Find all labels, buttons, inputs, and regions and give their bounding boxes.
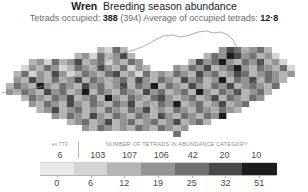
map-canvas — [0, 27, 308, 139]
tetrad-cell — [59, 83, 67, 89]
tetrad-cell — [97, 47, 105, 53]
tetrad-cell — [264, 77, 272, 83]
tetrad-cell — [112, 113, 120, 119]
tetrad-cell — [188, 89, 196, 95]
tetrad-cell — [82, 101, 90, 107]
tetrad-cell — [128, 95, 136, 101]
season-label: Breeding season abundance — [103, 0, 237, 12]
tetrad-cell — [128, 101, 136, 107]
tetrad-cell — [242, 95, 250, 101]
tetrad-cell — [249, 65, 257, 71]
tetrad-cell — [36, 71, 44, 77]
tetrad-cell — [264, 89, 272, 95]
legend-swatch — [242, 163, 276, 175]
tetrad-cell — [143, 77, 151, 83]
tetrad-cell — [181, 107, 189, 113]
tetrad-cell — [105, 101, 113, 107]
tetrad-cell — [29, 59, 37, 65]
tetrad-cell — [74, 113, 82, 119]
tetrad-cell — [82, 65, 90, 71]
tetrad-cell — [173, 113, 181, 119]
tetrad-cell — [226, 95, 234, 101]
tetrad-cell — [173, 101, 181, 107]
tetrad-cell — [257, 89, 265, 95]
tetrad-cell — [135, 65, 143, 71]
tetrad-cell — [181, 65, 189, 71]
tetrad-cell — [219, 101, 227, 107]
tetrad-cell — [36, 101, 44, 107]
tetrad-cell — [120, 71, 128, 77]
tetrad-cell — [226, 107, 234, 113]
tetrad-cell — [128, 65, 136, 71]
tetrad-cell — [173, 71, 181, 77]
tetrad-cell — [272, 71, 280, 77]
tetrad-cell — [135, 83, 143, 89]
tetrad-cell — [287, 65, 295, 71]
tetrad-cell — [29, 65, 37, 71]
tetrad-cell — [181, 89, 189, 95]
tetrad-cell — [14, 77, 22, 83]
tetrad-cell — [67, 83, 75, 89]
tetrad-cell — [219, 89, 227, 95]
tetrad-cell — [128, 113, 136, 119]
tetrad-cell — [52, 59, 60, 65]
tetrad-cell — [29, 95, 37, 101]
tetrad-cell — [150, 89, 158, 95]
tetrad-cell — [211, 95, 219, 101]
tetrad-cell — [158, 95, 166, 101]
tetrad-cell — [226, 83, 234, 89]
tetrad-cell — [128, 83, 136, 89]
tetrad-cell — [188, 77, 196, 83]
tetrad-cell — [112, 47, 120, 53]
tetrad-cell — [257, 95, 265, 101]
tetrad-cell — [36, 95, 44, 101]
tetrad-cell — [128, 107, 136, 113]
tetrad-cell — [249, 59, 257, 65]
tetrad-cell — [150, 83, 158, 89]
tetrad-cell — [204, 89, 212, 95]
tetrad-cell — [74, 119, 82, 125]
tetrad-cell — [188, 119, 196, 125]
tetrad-cell — [272, 83, 280, 89]
tetrad-cell — [74, 59, 82, 65]
figure-statistics: Tetrads occupied: 388 (394) Average of o… — [0, 13, 308, 24]
tetrad-cell — [120, 119, 128, 125]
tetrad-cell — [44, 89, 52, 95]
tetrad-cell — [105, 83, 113, 89]
tetrad-cell — [196, 95, 204, 101]
tetrad-cell — [82, 107, 90, 113]
tetrad-cell — [143, 107, 151, 113]
tetrad-cell — [226, 77, 234, 83]
tetrad-cell — [257, 47, 265, 53]
tetrad-cell — [97, 53, 105, 59]
tetrad-cell — [249, 83, 257, 89]
legend-count: 20 — [209, 149, 241, 162]
tetrad-cell — [67, 113, 75, 119]
tetrad-cell — [204, 59, 212, 65]
tetrad-cell — [112, 71, 120, 77]
tetrad-cell — [181, 71, 189, 77]
tetrad-cell — [226, 59, 234, 65]
average-tetrads-label: Average of occupied tetrads: — [143, 13, 257, 23]
tetrad-cell — [36, 65, 44, 71]
tetrad-cell — [150, 71, 158, 77]
tetrad-cell — [196, 113, 204, 119]
tetrad-cell — [36, 107, 44, 113]
tetrad-cell — [120, 101, 128, 107]
tetrad-cell — [112, 125, 120, 131]
tetrad-cell — [74, 83, 82, 89]
tetrad-cell — [105, 65, 113, 71]
tetrad-cell — [173, 107, 181, 113]
legend-scale-value: 51 — [243, 178, 275, 189]
legend-swatch — [40, 163, 74, 175]
tetrad-cell — [82, 95, 90, 101]
tetrad-cell — [112, 119, 120, 125]
tetrad-cell — [143, 95, 151, 101]
legend-tick — [91, 175, 92, 178]
tetrad-cell — [44, 107, 52, 113]
tetrad-cell — [135, 125, 143, 131]
tetrad-cell — [97, 89, 105, 95]
tetrad-cell — [219, 59, 227, 65]
tetrad-cell — [173, 125, 181, 131]
tetrad-cell — [59, 71, 67, 77]
